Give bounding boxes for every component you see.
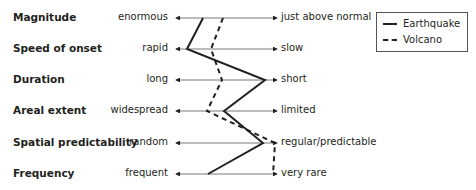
legend-label-volcano: Volcano <box>403 34 442 45</box>
dashed-line-icon <box>383 39 397 41</box>
earthquake-line <box>187 18 265 174</box>
legend: Earthquake Volcano <box>376 12 468 52</box>
legend-item-volcano: Volcano <box>383 34 442 45</box>
volcano-line <box>207 18 275 174</box>
legend-item-earthquake: Earthquake <box>383 18 460 29</box>
solid-line-icon <box>383 23 397 25</box>
legend-label-earthquake: Earthquake <box>403 18 460 29</box>
